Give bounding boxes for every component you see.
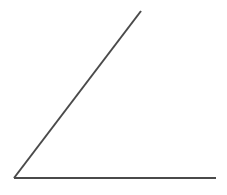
figure-background — [0, 0, 227, 195]
angle-figure: Angle diagram A single acute angle forme… — [0, 0, 227, 195]
diagram-canvas: Angle diagram A single acute angle forme… — [0, 0, 227, 195]
